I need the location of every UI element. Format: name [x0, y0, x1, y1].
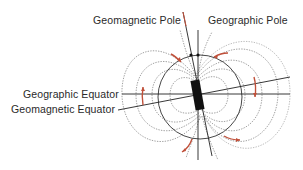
geographic-pole-label: Geographic Pole: [208, 15, 288, 26]
geomagnetic-pole-dot: [189, 53, 192, 56]
geomagnetic-equator-line: [118, 77, 290, 110]
bar-magnet: [190, 79, 204, 110]
geographic-pole-dot: [196, 53, 199, 56]
geomagnetic-pole-label: Geomagnetic Pole: [93, 15, 181, 26]
geomagnetic-pole-arrow-icon: [183, 12, 186, 26]
geographic-equator-label: Geographic Equator: [23, 89, 119, 100]
field-lines: [122, 30, 290, 160]
geomagnetic-equator-label: Geomagnetic Equator: [11, 104, 115, 115]
